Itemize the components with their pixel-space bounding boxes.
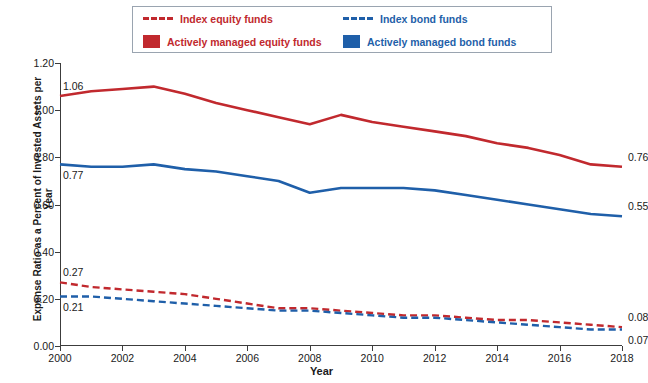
data-point-label: 0.08 [628, 311, 648, 323]
x-tick-label: 2018 [610, 352, 633, 364]
legend-item-index-equity-funds: Index equity funds [143, 13, 343, 25]
series-lines [60, 63, 622, 346]
x-tick-mark [185, 346, 186, 351]
legend-label: Index bond funds [380, 13, 468, 25]
dashed-line-red-icon [143, 17, 173, 20]
legend-item-active-equity-funds: Actively managed equity funds [143, 35, 343, 48]
y-tick-mark [55, 63, 60, 64]
legend-label: Actively managed equity funds [167, 36, 322, 48]
series-line [60, 296, 622, 329]
x-tick-mark [435, 346, 436, 351]
y-tick-label: 0.40 [34, 246, 54, 258]
series-line [60, 87, 622, 167]
x-tick-mark [497, 346, 498, 351]
plot-area: 0.000.200.400.600.801.001.20200020022004… [60, 63, 622, 346]
dashed-line-blue-icon [343, 17, 373, 20]
data-point-label: 0.07 [628, 334, 648, 346]
legend-label: Index equity funds [180, 13, 273, 25]
data-point-label: 0.21 [63, 301, 83, 313]
x-axis-title: Year [0, 365, 643, 377]
y-tick-mark [55, 110, 60, 111]
data-point-label: 0.55 [628, 200, 648, 212]
x-tick-label: 2006 [236, 352, 259, 364]
x-tick-label: 2012 [423, 352, 446, 364]
legend-item-index-bond-funds: Index bond funds [343, 13, 468, 25]
square-red-icon [143, 35, 160, 48]
y-tick-label: 0.00 [34, 340, 54, 352]
x-tick-mark [60, 346, 61, 351]
y-tick-label: 1.20 [34, 57, 54, 69]
y-tick-label: 0.20 [34, 293, 54, 305]
legend-label: Actively managed bond funds [367, 36, 516, 48]
y-tick-mark [55, 252, 60, 253]
x-tick-mark [560, 346, 561, 351]
x-tick-label: 2002 [111, 352, 134, 364]
data-point-label: 0.76 [628, 151, 648, 163]
y-tick-label: 0.60 [34, 199, 54, 211]
data-point-label: 0.27 [63, 266, 83, 278]
x-tick-label: 2008 [298, 352, 321, 364]
data-point-label: 0.77 [63, 169, 83, 181]
x-tick-label: 2010 [361, 352, 384, 364]
chart-legend: Index equity funds Index bond funds Acti… [132, 6, 552, 53]
y-tick-mark [55, 157, 60, 158]
legend-row-top: Index equity funds Index bond funds [133, 7, 551, 30]
y-tick-mark [55, 299, 60, 300]
square-blue-icon [343, 35, 360, 48]
x-tick-mark [247, 346, 248, 351]
x-tick-mark [622, 346, 623, 351]
series-line [60, 164, 622, 216]
y-tick-label: 0.80 [34, 151, 54, 163]
x-tick-label: 2014 [485, 352, 508, 364]
x-tick-label: 2000 [48, 352, 71, 364]
legend-item-active-bond-funds: Actively managed bond funds [343, 35, 516, 48]
x-tick-label: 2004 [173, 352, 196, 364]
series-line [60, 282, 622, 327]
data-point-label: 1.06 [63, 80, 83, 92]
legend-row-bottom: Actively managed equity funds Actively m… [133, 30, 551, 53]
x-tick-label: 2016 [548, 352, 571, 364]
x-tick-mark [372, 346, 373, 351]
y-tick-label: 1.00 [34, 104, 54, 116]
x-tick-mark [122, 346, 123, 351]
x-tick-mark [310, 346, 311, 351]
y-tick-mark [55, 205, 60, 206]
